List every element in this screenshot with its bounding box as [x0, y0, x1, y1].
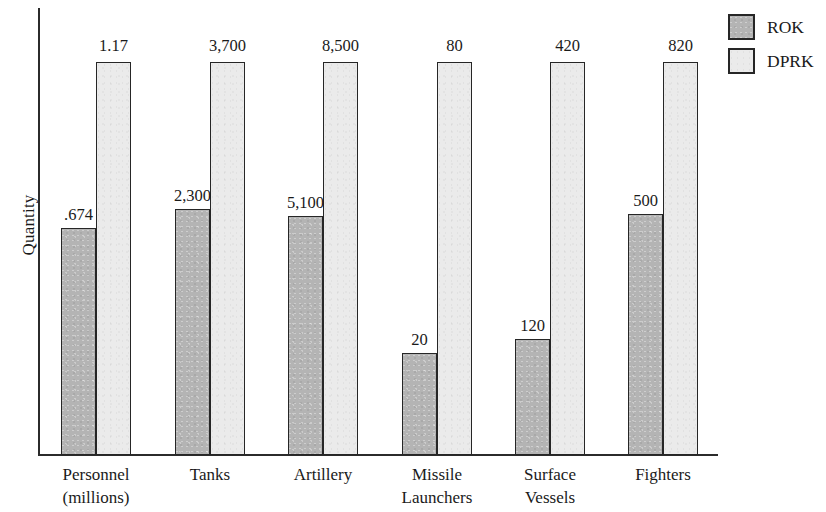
dprk-swatch-icon: [728, 48, 755, 74]
bar-rok-2: [288, 216, 323, 455]
x-axis-label-line2-4: Vessels: [490, 486, 610, 509]
rok-swatch-icon: [728, 14, 755, 40]
legend-item-rok: ROK: [728, 10, 824, 44]
x-axis-label-5: Fighters: [603, 463, 723, 486]
value-label-rok-2: 5,100: [271, 193, 340, 213]
value-label-rok-1: 2,300: [158, 186, 227, 206]
value-label-dprk-5: 820: [646, 36, 715, 56]
value-label-rok-5: 500: [611, 191, 680, 211]
bar-dprk-4: [550, 62, 585, 455]
value-label-dprk-2: 8,500: [306, 36, 375, 56]
bar-chart: Quantity .6741.17Personnel(millions)2,30…: [0, 0, 826, 512]
bar-dprk-3: [437, 62, 472, 455]
bar-rok-4: [515, 339, 550, 455]
x-axis-label-line2-0: (millions): [36, 486, 156, 509]
value-label-rok-4: 120: [498, 316, 567, 336]
value-label-rok-3: 20: [385, 330, 454, 350]
bar-rok-1: [175, 209, 210, 455]
x-axis-label-line1-4: Surface: [490, 463, 610, 486]
legend-label-dprk: DPRK: [767, 51, 814, 72]
legend: ROK DPRK: [728, 10, 824, 78]
plot-area: .6741.17Personnel(millions)2,3003,700Tan…: [0, 0, 826, 512]
bar-dprk-2: [323, 62, 358, 455]
bar-rok-3: [402, 353, 437, 455]
legend-label-rok: ROK: [767, 17, 804, 38]
x-axis-label-line1-2: Artillery: [263, 463, 383, 486]
x-axis-label-0: Personnel(millions): [36, 463, 156, 509]
x-axis-label-line1-3: Missile: [377, 463, 497, 486]
value-label-rok-0: .674: [44, 205, 113, 225]
x-axis-label-1: Tanks: [150, 463, 270, 486]
x-axis-label-line2-3: Launchers: [377, 486, 497, 509]
value-label-dprk-3: 80: [420, 36, 489, 56]
value-label-dprk-1: 3,700: [193, 36, 262, 56]
x-axis-label-line1-1: Tanks: [150, 463, 270, 486]
x-axis-label-3: MissileLaunchers: [377, 463, 497, 509]
bar-dprk-1: [210, 62, 245, 455]
bar-dprk-5: [663, 62, 698, 455]
value-label-dprk-0: 1.17: [79, 36, 148, 56]
legend-item-dprk: DPRK: [728, 44, 824, 78]
bar-rok-0: [61, 228, 96, 455]
x-axis-label-line1-0: Personnel: [36, 463, 156, 486]
bar-rok-5: [628, 214, 663, 455]
value-label-dprk-4: 420: [533, 36, 602, 56]
x-axis-label-4: SurfaceVessels: [490, 463, 610, 509]
x-axis-label-2: Artillery: [263, 463, 383, 486]
bar-dprk-0: [96, 62, 131, 455]
x-axis-label-line1-5: Fighters: [603, 463, 723, 486]
